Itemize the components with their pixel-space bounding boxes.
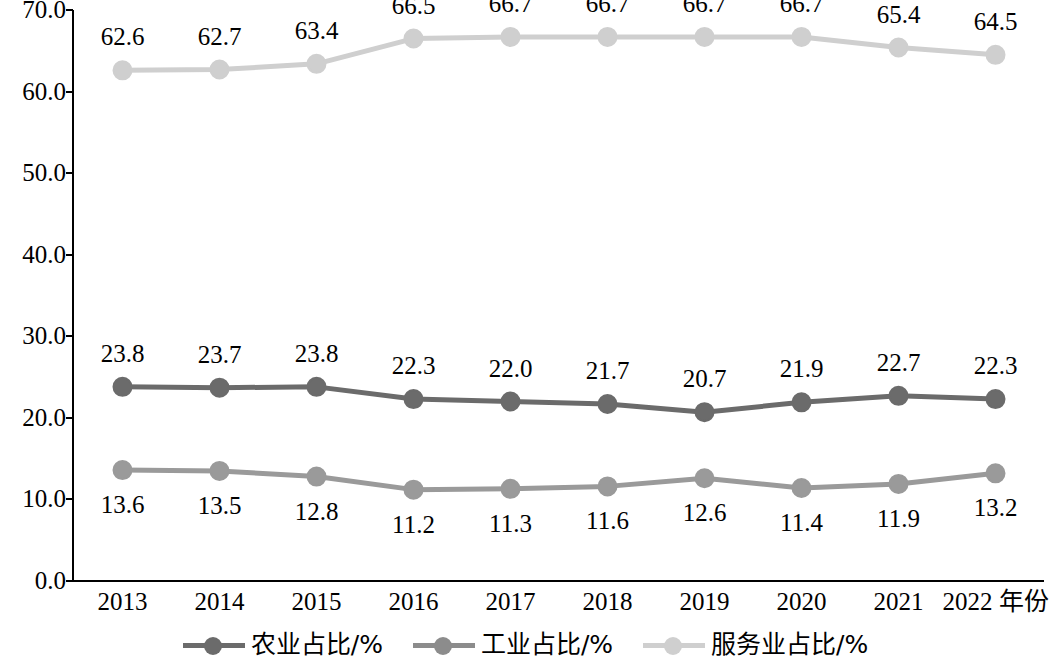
data-point-marker — [890, 39, 908, 57]
data-point-marker — [987, 46, 1005, 64]
data-point-marker — [114, 61, 132, 79]
data-point-marker — [793, 479, 811, 497]
data-point-label: 64.5 — [974, 9, 1018, 34]
data-point-label: 11.4 — [780, 510, 823, 535]
data-point-label: 12.8 — [295, 499, 339, 524]
data-point-marker — [211, 61, 229, 79]
data-point-marker — [890, 387, 908, 405]
data-point-marker — [114, 461, 132, 479]
data-point-label: 13.5 — [198, 493, 242, 518]
data-point-label: 62.7 — [198, 24, 242, 49]
legend-swatch — [183, 634, 245, 656]
data-point-label: 11.9 — [877, 506, 920, 531]
data-point-label: 23.7 — [198, 342, 242, 367]
data-point-marker — [405, 30, 423, 48]
data-point-marker — [502, 480, 520, 498]
legend-label: 农业占比/% — [251, 632, 383, 658]
data-point-label: 63.4 — [295, 18, 339, 43]
data-point-label: 12.6 — [683, 500, 727, 525]
legend-label: 服务业占比/% — [711, 632, 868, 658]
data-point-marker — [599, 477, 617, 495]
data-point-label: 66.7 — [683, 0, 727, 16]
data-point-marker — [696, 469, 714, 487]
data-point-marker — [793, 393, 811, 411]
series-line — [123, 470, 996, 490]
data-point-label: 66.7 — [489, 0, 533, 16]
data-point-label: 21.9 — [780, 356, 824, 381]
data-point-marker — [502, 393, 520, 411]
data-point-marker — [987, 464, 1005, 482]
data-point-marker — [599, 395, 617, 413]
data-point-label: 23.8 — [295, 341, 339, 366]
legend-marker-icon — [664, 637, 682, 655]
legend-swatch — [413, 634, 475, 656]
data-point-marker — [211, 462, 229, 480]
data-point-marker — [987, 390, 1005, 408]
data-point-label: 11.3 — [489, 511, 532, 536]
data-point-label: 13.6 — [101, 492, 145, 517]
data-point-marker — [502, 28, 520, 46]
data-point-label: 65.4 — [877, 2, 921, 27]
data-point-label: 22.3 — [974, 353, 1018, 378]
data-point-marker — [308, 468, 326, 486]
data-point-label: 62.6 — [101, 24, 145, 49]
series-plot — [0, 0, 1051, 672]
series-1 — [114, 378, 1005, 421]
legend-marker-icon — [434, 637, 452, 655]
series-2 — [114, 28, 1005, 79]
data-point-marker — [114, 378, 132, 396]
legend-label: 工业占比/% — [481, 632, 613, 658]
data-point-label: 20.7 — [683, 366, 727, 391]
data-point-label: 22.7 — [877, 350, 921, 375]
data-point-marker — [308, 55, 326, 73]
data-point-marker — [793, 28, 811, 46]
data-point-marker — [405, 481, 423, 499]
data-point-label: 66.7 — [780, 0, 824, 16]
data-point-label: 11.6 — [586, 508, 629, 533]
series-line — [123, 387, 996, 412]
data-point-label: 21.7 — [586, 358, 630, 383]
data-point-label: 11.2 — [392, 512, 435, 537]
data-point-label: 23.8 — [101, 341, 145, 366]
data-point-marker — [211, 379, 229, 397]
data-point-marker — [890, 475, 908, 493]
series-line — [123, 37, 996, 70]
legend-marker-icon — [204, 637, 222, 655]
data-point-marker — [308, 378, 326, 396]
data-point-label: 66.7 — [586, 0, 630, 16]
data-point-marker — [696, 28, 714, 46]
line-chart: 0.010.020.030.040.050.060.070.0 20132014… — [0, 0, 1051, 672]
legend-item[interactable]: 服务业占比/% — [643, 632, 868, 658]
data-point-marker — [599, 28, 617, 46]
data-point-label: 22.3 — [392, 353, 436, 378]
legend-item[interactable]: 工业占比/% — [413, 632, 613, 658]
legend-swatch — [643, 634, 705, 656]
data-point-label: 66.5 — [392, 0, 436, 18]
series-0 — [114, 461, 1005, 499]
chart-legend: 农业占比/%工业占比/%服务业占比/% — [0, 632, 1051, 672]
data-point-marker — [405, 390, 423, 408]
data-point-label: 13.2 — [974, 495, 1018, 520]
data-point-label: 22.0 — [489, 356, 533, 381]
data-point-marker — [696, 403, 714, 421]
legend-item[interactable]: 农业占比/% — [183, 632, 383, 658]
